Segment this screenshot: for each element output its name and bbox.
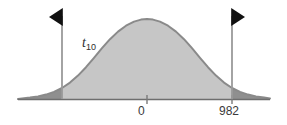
right-arrow-icon xyxy=(231,8,245,26)
t-distribution-figure: t10 0 982 xyxy=(0,0,287,125)
curve-label: t10 xyxy=(82,36,96,51)
central-shaded-area xyxy=(62,19,232,99)
axis-label-center: 0 xyxy=(138,105,145,117)
axis-label-critical-value: 982 xyxy=(219,105,239,117)
left-arrow-icon xyxy=(49,8,63,26)
curve-label-subscript: 10 xyxy=(86,42,96,52)
